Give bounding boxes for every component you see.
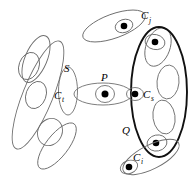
vertex-dot-c-s-top	[152, 39, 159, 46]
separator-group-p	[74, 83, 144, 105]
vertex-dot-p	[102, 91, 109, 98]
vertex-dot-c-j	[121, 23, 128, 30]
label-q: Q	[122, 124, 130, 136]
cluster-chain-ellipse-s3	[151, 99, 178, 136]
diagram-labels: C t C j C s C i S P Q	[54, 9, 154, 166]
cluster-chain-ellipse-s2	[156, 64, 181, 100]
cluster-group-c-j	[79, 3, 149, 48]
cluster-outline-c-j	[79, 3, 149, 48]
cluster-chain-ellipse-t2	[22, 78, 50, 111]
label-c-t-base: C	[54, 89, 62, 101]
label-c-j-sub: j	[148, 16, 151, 25]
label-c-i-base: C	[133, 151, 141, 163]
vertex-dot-c-i	[126, 164, 133, 171]
cluster-group-c-s	[131, 24, 187, 157]
cluster-lobe-t-bottom	[31, 117, 83, 175]
label-c-s-base: C	[143, 88, 151, 100]
cluster-chain-ellipse-s1	[140, 24, 176, 70]
label-c-s-sub: s	[151, 94, 154, 103]
label-c-j-base: C	[141, 9, 149, 21]
cluster-group-c-i	[118, 132, 184, 182]
label-c-t-sub: t	[62, 95, 65, 104]
cluster-overlap-diagram: C t C j C s C i S P Q	[0, 0, 196, 183]
label-c-i-sub: i	[141, 157, 143, 166]
label-s: S	[64, 62, 70, 74]
cluster-chain-ellipse-t3	[33, 114, 67, 150]
label-p: P	[100, 71, 108, 83]
label-c-i: C i	[133, 151, 143, 166]
cluster-group-c-t	[2, 32, 83, 175]
figure-root: C t C j C s C i S P Q	[0, 0, 196, 183]
label-c-s: C s	[143, 88, 154, 103]
vertex-dot-c-s-mid	[132, 91, 139, 98]
